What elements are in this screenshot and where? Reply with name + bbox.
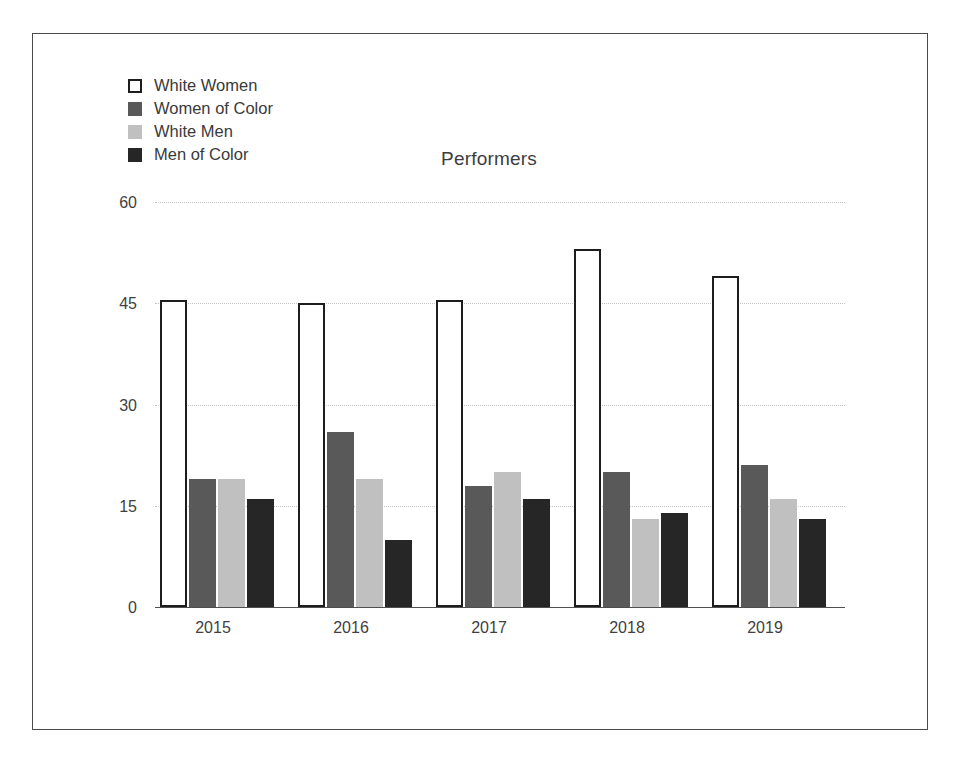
bar-2019-white-men — [770, 499, 797, 607]
bar-group-2019: 2019 — [707, 202, 845, 607]
bar-2016-women-of-color — [327, 432, 354, 608]
legend-swatch-women-of-color — [128, 102, 142, 116]
legend-label-white-men: White Men — [154, 123, 233, 140]
figure-page: White Women Women of Color White Men Men… — [0, 0, 978, 772]
xtick-label-2019: 2019 — [707, 619, 845, 637]
legend-swatch-white-men — [128, 125, 142, 139]
ytick-label-60: 60 — [119, 194, 137, 212]
legend-swatch-white-women — [128, 79, 142, 93]
ytick-label-0: 0 — [128, 599, 137, 617]
bar-2017-white-women — [436, 300, 463, 607]
legend-item-women-of-color: Women of Color — [128, 97, 358, 120]
bar-2016-men-of-color — [385, 540, 412, 608]
bar-2017-women-of-color — [465, 486, 492, 608]
bar-2015-white-women — [160, 300, 187, 607]
legend-label-women-of-color: Women of Color — [154, 100, 273, 117]
xtick-label-2016: 2016 — [293, 619, 431, 637]
chart-title: Performers — [0, 148, 978, 170]
xtick-label-2018: 2018 — [569, 619, 707, 637]
legend-item-white-women: White Women — [128, 74, 358, 97]
bar-2018-white-men — [632, 519, 659, 607]
bar-2015-women-of-color — [189, 479, 216, 607]
bar-2015-men-of-color — [247, 499, 274, 607]
bar-2018-white-women — [574, 249, 601, 607]
bar-2018-women-of-color — [603, 472, 630, 607]
bar-2018-men-of-color — [661, 513, 688, 608]
bar-group-2017: 2017 — [431, 202, 569, 607]
xtick-label-2015: 2015 — [155, 619, 293, 637]
xtick-label-2017: 2017 — [431, 619, 569, 637]
bar-2016-white-women — [298, 303, 325, 607]
bar-group-2015: 2015 — [155, 202, 293, 607]
ytick-label-15: 15 — [119, 498, 137, 516]
bar-2019-men-of-color — [799, 519, 826, 607]
legend-item-white-men: White Men — [128, 120, 358, 143]
bar-2017-men-of-color — [523, 499, 550, 607]
bar-groups: 2015 2016 — [155, 202, 845, 607]
bar-2019-women-of-color — [741, 465, 768, 607]
bar-group-2018: 2018 — [569, 202, 707, 607]
bar-2016-white-men — [356, 479, 383, 607]
bar-group-2016: 2016 — [293, 202, 431, 607]
ytick-label-30: 30 — [119, 397, 137, 415]
axis-baseline: 0 — [155, 607, 845, 608]
bar-2017-white-men — [494, 472, 521, 607]
bar-2019-white-women — [712, 276, 739, 607]
plot-area: 60 45 30 15 0 2015 — [155, 202, 845, 607]
legend-label-white-women: White Women — [154, 77, 257, 94]
bar-2015-white-men — [218, 479, 245, 607]
ytick-label-45: 45 — [119, 295, 137, 313]
